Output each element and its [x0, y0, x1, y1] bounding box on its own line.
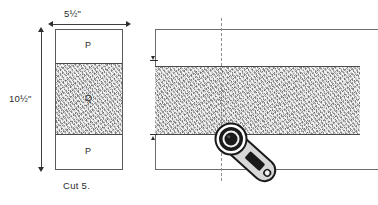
height-dimension-label: 10½": [9, 94, 32, 104]
rotary-cutter-icon: [212, 120, 307, 202]
band-tick-top-line: [150, 60, 158, 61]
band-p-bottom: P: [56, 135, 122, 169]
cutter-blade-highlight: [227, 135, 230, 138]
band-p-top-label: P: [85, 41, 91, 50]
band-tick-bottom-arrow-icon: [151, 136, 155, 140]
width-arrow-left-icon: [48, 21, 53, 27]
cut-5-figure: 5½" 10½" P Q P Cut 5.: [0, 0, 378, 205]
cutter-blade-hub: [225, 133, 238, 146]
height-arrow-down-icon: [38, 167, 44, 172]
band-tick-top-arrow-icon: [151, 56, 155, 60]
band-p-top: P: [56, 30, 122, 63]
band-p-bottom-label: P: [85, 147, 91, 156]
band-q-middle: Q: [56, 63, 122, 135]
figure-caption: Cut 5.: [63, 181, 90, 191]
strip-top-edge: [155, 29, 378, 30]
width-dimension-label: 5½": [64, 9, 81, 19]
width-arrow-right-icon: [126, 21, 131, 27]
height-dimension-line: [41, 32, 42, 167]
band-q-middle-label: Q: [85, 94, 92, 103]
band-tick-bottom-line: [150, 134, 158, 135]
height-arrow-up-icon: [38, 27, 44, 32]
width-dimension-line: [50, 24, 128, 25]
cut-unit-block: P Q P: [55, 29, 123, 170]
